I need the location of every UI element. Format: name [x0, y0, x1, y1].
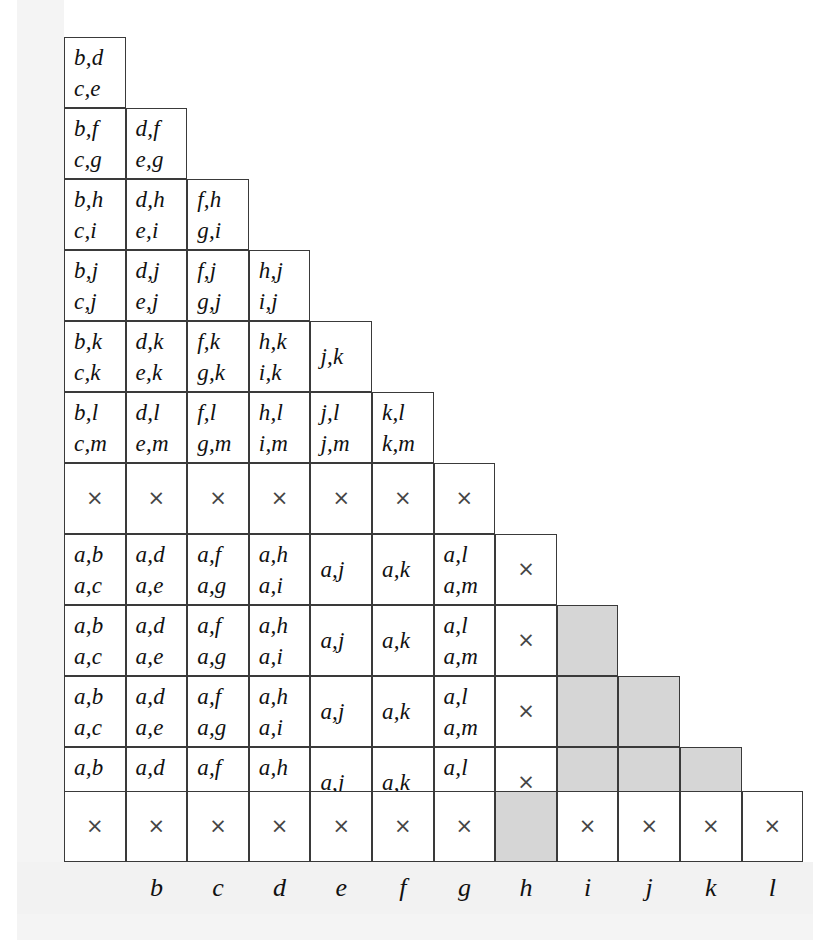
cell-content: ×: [496, 535, 556, 604]
cell-content: a,ha,i: [250, 677, 310, 746]
grid-cell-cross: ×: [249, 463, 311, 534]
cell-content: h,ki,k: [250, 322, 310, 391]
cell-pair-label: d,j: [136, 255, 187, 286]
cell-content: b,fc,g: [65, 109, 125, 178]
grid-cell: b,kc,k: [64, 321, 126, 392]
grid-cell-cross: ×: [495, 676, 557, 747]
grid-cell: a,ba,c: [64, 676, 126, 747]
grid-cell-cross: ×: [618, 791, 680, 862]
cell-pair-label: g,k: [197, 357, 248, 388]
cell-content: a,fa,g: [188, 606, 248, 675]
cell-content: [558, 606, 618, 675]
cell-content: ×: [188, 464, 248, 533]
cell-pair-label: e,i: [136, 215, 187, 246]
grid-cell-cross: ×: [126, 791, 188, 862]
grid-cell: d,je,j: [126, 250, 188, 321]
axis-label-d: d: [249, 868, 311, 908]
grid-cell: a,ba,c: [64, 605, 126, 676]
cell-pair-label: a,l: [444, 752, 495, 783]
cell-pair-label: a,j: [320, 696, 371, 727]
grid-cell: d,le,m: [126, 392, 188, 463]
cell-pair-label: f,h: [197, 184, 248, 215]
grid-cell: a,k: [372, 534, 434, 605]
grid-cell: a,fa,g: [187, 534, 249, 605]
cell-content: ×: [250, 464, 310, 533]
grid-cell: f,lg,m: [187, 392, 249, 463]
grid-cell: a,ha,i: [249, 605, 311, 676]
cross-icon: ×: [209, 816, 227, 837]
cell-pair-label: a,k: [382, 554, 433, 585]
cell-content: ×: [435, 464, 495, 533]
cell-pair-label: a,d: [136, 752, 187, 783]
grid-cell: b,hc,i: [64, 179, 126, 250]
cell-pair-label: a,f: [197, 610, 248, 641]
cell-pair-label: j,l: [320, 397, 371, 428]
cross-icon: ×: [271, 488, 289, 509]
cell-pair-label: a,d: [136, 681, 187, 712]
grid-cell: a,ba,c: [64, 534, 126, 605]
cell-content: ×: [65, 464, 125, 533]
grid-cell-cross: ×: [249, 791, 311, 862]
cell-pair-label: f,j: [197, 255, 248, 286]
cell-pair-label: a,b: [74, 681, 125, 712]
cell-pair-label: b,j: [74, 255, 125, 286]
cross-icon: ×: [456, 816, 474, 837]
cell-content: a,la,m: [435, 677, 495, 746]
cell-content: f,lg,m: [188, 393, 248, 462]
cross-icon: ×: [517, 701, 535, 722]
cross-icon: ×: [640, 816, 658, 837]
cell-pair-label: a,f: [197, 539, 248, 570]
axis-label-c: c: [187, 868, 249, 908]
cell-pair-label: a,l: [444, 610, 495, 641]
cell-content: d,le,m: [127, 393, 187, 462]
cell-content: a,ba,c: [65, 677, 125, 746]
grid-cell-cross: ×: [310, 463, 372, 534]
cell-content: a,ha,i: [250, 535, 310, 604]
cell-pair-label: a,e: [136, 570, 187, 601]
cell-pair-label: e,j: [136, 286, 187, 317]
column-axis: bcdefghijkl: [17, 862, 813, 914]
cell-pair-label: g,i: [197, 215, 248, 246]
axis-label-g: g: [434, 868, 496, 908]
cell-pair-label: a,i: [259, 712, 310, 743]
cell-content: a,j: [311, 677, 371, 746]
cell-pair-label: f,l: [197, 397, 248, 428]
cell-pair-label: a,b: [74, 539, 125, 570]
grid-cell-cross: ×: [187, 463, 249, 534]
cell-pair-label: h,j: [259, 255, 310, 286]
cell-pair-label: e,g: [136, 144, 187, 175]
cell-content: a,k: [373, 606, 433, 675]
cell-content: a,la,m: [435, 535, 495, 604]
axis-label-j: j: [618, 868, 680, 908]
grid-cell-cross: ×: [434, 463, 496, 534]
cross-icon: ×: [332, 488, 350, 509]
cell-content: d,fe,g: [127, 109, 187, 178]
cell-content: ×: [435, 792, 495, 861]
cell-content: a,ba,c: [65, 535, 125, 604]
grid-cell: a,ha,i: [249, 534, 311, 605]
cell-content: [619, 677, 679, 746]
cell-content: [558, 677, 618, 746]
cell-content: d,je,j: [127, 251, 187, 320]
cross-icon: ×: [332, 816, 350, 837]
grid-cell: d,he,i: [126, 179, 188, 250]
cell-content: a,fa,g: [188, 535, 248, 604]
cell-content: a,da,e: [127, 535, 187, 604]
cell-content: ×: [311, 792, 371, 861]
cell-pair-label: a,d: [136, 539, 187, 570]
grid-cell-shaded: [618, 676, 680, 747]
cell-content: a,la,m: [435, 606, 495, 675]
grid-cell: f,hg,i: [187, 179, 249, 250]
cell-pair-label: b,d: [74, 42, 125, 73]
grid-cell: a,fa,g: [187, 605, 249, 676]
cell-pair-label: a,g: [197, 570, 248, 601]
grid-cell: h,li,m: [249, 392, 311, 463]
grid-cell: a,j: [310, 676, 372, 747]
cell-content: b,hc,i: [65, 180, 125, 249]
grid-cell: h,ji,j: [249, 250, 311, 321]
cell-pair-label: g,m: [197, 428, 248, 459]
cell-content: a,j: [311, 535, 371, 604]
cell-pair-label: b,f: [74, 113, 125, 144]
cell-content: k,lk,m: [373, 393, 433, 462]
cell-pair-label: h,l: [259, 397, 310, 428]
